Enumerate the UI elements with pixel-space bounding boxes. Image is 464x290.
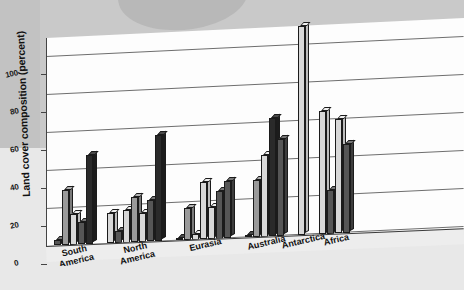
bar-australia-2 <box>261 155 268 237</box>
bar-side <box>350 139 354 231</box>
bar-face <box>319 111 326 235</box>
bar-face <box>86 155 93 244</box>
bar-face <box>78 222 85 245</box>
y-tick-60 <box>41 150 47 151</box>
bar-side <box>93 151 97 243</box>
y-tick-40 <box>41 188 47 189</box>
bar-face <box>277 139 284 236</box>
bar-south-america-1 <box>62 190 69 245</box>
bar-face <box>343 144 350 233</box>
bar-africa-2 <box>335 119 342 233</box>
bar-side <box>305 22 309 233</box>
bar-face <box>224 181 231 238</box>
bar-antarctica-0 <box>298 26 305 235</box>
bar-eurasia-1 <box>184 208 191 240</box>
bar-north-america-4 <box>139 213 146 242</box>
y-tick-labels: 020406080100 <box>0 18 44 266</box>
bar-face <box>208 207 215 239</box>
bar-face <box>184 208 191 240</box>
bar-face <box>253 180 260 237</box>
bar-eurasia-4 <box>208 207 215 239</box>
y-tick-0 <box>41 264 47 265</box>
y-tick-80 <box>41 112 47 113</box>
bar-south-america-3 <box>78 222 85 245</box>
bar-face <box>139 213 146 242</box>
bar-north-america-6 <box>155 135 162 241</box>
bar-side <box>284 135 288 234</box>
bar-face <box>147 200 154 242</box>
bar-face <box>131 197 138 243</box>
bar-face <box>123 210 130 242</box>
bar-north-america-5 <box>147 200 154 242</box>
bar-australia-3 <box>269 118 276 236</box>
y-tick-20 <box>41 226 47 227</box>
y-tick-label-60: 60 <box>9 144 19 155</box>
bar-face <box>269 118 276 236</box>
bar-top <box>300 22 311 26</box>
bar-africa-3 <box>343 144 350 233</box>
bar-north-america-0 <box>107 213 114 243</box>
bar-north-america-1 <box>115 231 122 242</box>
bar-australia-4 <box>277 139 284 236</box>
bar-face <box>298 26 305 235</box>
y-tick-label-80: 80 <box>9 106 19 117</box>
bar-north-america-2 <box>123 210 130 242</box>
bar-africa-0 <box>319 111 326 235</box>
bar-north-america-3 <box>131 197 138 243</box>
bar-face <box>216 191 223 239</box>
y-tick-label-40: 40 <box>9 182 19 193</box>
bar-face <box>200 182 207 239</box>
bar-face <box>62 190 69 245</box>
bar-face <box>155 135 162 241</box>
bar-face <box>70 214 77 244</box>
bar-face <box>115 231 122 242</box>
bar-face <box>327 190 334 234</box>
bar-south-america-2 <box>70 214 77 244</box>
y-tick-label-20: 20 <box>9 220 19 231</box>
bar-side <box>231 177 235 236</box>
bar-eurasia-6 <box>224 181 231 238</box>
chart-plot-area: South AmericaNorth AmericaEurasiaAustral… <box>46 18 464 266</box>
y-tick-100 <box>41 74 47 75</box>
bar-face <box>261 155 268 237</box>
bar-eurasia-5 <box>216 191 223 239</box>
bar-africa-1 <box>327 190 334 234</box>
bar-face <box>335 119 342 233</box>
bar-south-america-4 <box>86 155 93 244</box>
bar-face <box>107 213 114 243</box>
bar-eurasia-3 <box>200 182 207 239</box>
bar-side <box>162 130 166 239</box>
bar-australia-1 <box>253 180 260 237</box>
y-tick-label-100: 100 <box>5 68 19 80</box>
y-axis-line <box>46 38 47 246</box>
